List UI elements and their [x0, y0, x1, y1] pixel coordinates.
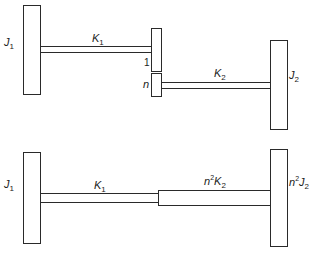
- inertia-j1-bottom: [24, 153, 41, 244]
- shaft-k2-top: [162, 83, 271, 89]
- label-k1-bottom: K1: [94, 179, 106, 194]
- label-gear-n-ratio: n: [143, 78, 149, 90]
- shaft-n2k2-bottom: [159, 191, 271, 206]
- label-k2-top: K2: [214, 67, 226, 82]
- inertia-j1-top: [24, 6, 41, 95]
- shaft-k1-bottom: [41, 194, 159, 203]
- diagram-svg: J1 K1 1 n K2 J2 J1 K1 n2K2 n2J2: [0, 0, 324, 258]
- label-k1-top: K1: [92, 32, 104, 47]
- label-n2k2-bottom: n2K2: [204, 174, 226, 190]
- inertia-j2-top: [271, 41, 288, 130]
- gear-n: [152, 74, 162, 97]
- top-system: J1 K1 1 n K2 J2: [3, 6, 300, 130]
- label-n2j2-bottom: n2J2: [289, 175, 310, 191]
- label-j2-top: J2: [288, 69, 300, 84]
- label-j1-bottom: J1: [3, 178, 15, 193]
- inertia-n2j2-bottom: [271, 150, 288, 247]
- shaft-k1-top: [41, 47, 152, 53]
- label-j1-top: J1: [3, 36, 15, 51]
- diagram-canvas: J1 K1 1 n K2 J2 J1 K1 n2K2 n2J2: [0, 0, 324, 258]
- label-gear-1-ratio: 1: [144, 57, 150, 68]
- gear-1: [152, 29, 162, 72]
- bottom-system: J1 K1 n2K2 n2J2: [3, 150, 310, 247]
